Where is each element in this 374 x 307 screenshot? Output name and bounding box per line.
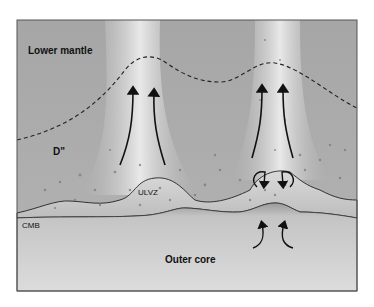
label-ulvz: ULVZ [138,188,158,197]
label-d-double-prime: D" [53,146,65,157]
label-outer-core: Outer core [165,254,216,265]
label-cmb: CMB [22,221,40,230]
label-lower-mantle: Lower mantle [28,45,92,56]
